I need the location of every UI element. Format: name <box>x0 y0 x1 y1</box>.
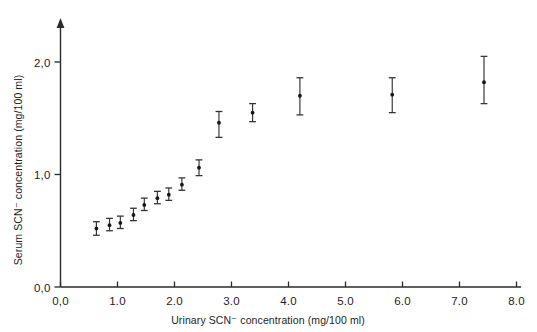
data-point <box>297 78 304 115</box>
data-marker-dot <box>251 111 255 115</box>
data-marker-dot <box>95 227 99 231</box>
x-tick-label: 5.0 <box>337 295 354 307</box>
data-marker-dot <box>142 203 146 207</box>
x-axis-label: Urinary SCN⁻ concentration (mg/100 ml) <box>171 314 365 326</box>
scatter-plot-canvas: 0,01.02.03.04.05.06.07.08.0 0,01,02,0 Ur… <box>0 0 537 332</box>
x-tick-label: 1.0 <box>109 295 126 307</box>
data-point <box>249 104 256 122</box>
x-tick-label: 6.0 <box>394 295 411 307</box>
data-point <box>154 191 161 203</box>
data-point <box>481 56 488 103</box>
x-tick-label: 7.0 <box>451 295 468 307</box>
data-marker-dot <box>482 80 486 84</box>
data-point <box>106 218 113 230</box>
data-marker-dot <box>167 193 171 197</box>
y-axis-arrow-icon <box>57 18 65 28</box>
data-marker-dot <box>156 196 160 200</box>
y-axis-ticks: 0,01,02,0 <box>34 57 61 294</box>
chart-figure: 0,01.02.03.04.05.06.07.08.0 0,01,02,0 Ur… <box>0 0 537 332</box>
x-axis-ticks: 0,01.02.03.04.05.06.07.08.0 <box>52 282 525 308</box>
data-marker-dot <box>298 94 302 98</box>
data-point <box>117 216 124 228</box>
data-marker-dot <box>180 183 184 187</box>
data-point <box>141 198 148 210</box>
y-tick-label: 0,0 <box>34 282 51 294</box>
data-point <box>179 178 186 190</box>
x-tick-label: 8.0 <box>508 295 525 307</box>
data-point <box>389 78 396 113</box>
data-marker-dot <box>118 221 122 225</box>
data-marker-dot <box>390 93 394 97</box>
data-marker-dot <box>197 166 201 170</box>
x-tick-label: 2.0 <box>166 295 183 307</box>
x-tick-label: 0,0 <box>52 295 69 307</box>
data-point <box>196 160 203 176</box>
y-tick-label: 2,0 <box>34 57 51 69</box>
axes-group <box>57 18 521 287</box>
y-axis-label: Serum SCN⁻ concentration (mg/100 ml) <box>12 75 24 266</box>
data-marker-dot <box>108 223 112 227</box>
data-marker-dot <box>217 121 221 125</box>
data-points-group <box>93 56 487 235</box>
data-point <box>130 208 137 220</box>
data-point <box>165 188 172 200</box>
data-point <box>216 112 223 138</box>
x-tick-label: 3.0 <box>223 295 240 307</box>
y-tick-label: 1,0 <box>34 169 51 181</box>
data-marker-dot <box>132 213 136 217</box>
data-point <box>93 222 100 236</box>
x-tick-label: 4.0 <box>280 295 297 307</box>
